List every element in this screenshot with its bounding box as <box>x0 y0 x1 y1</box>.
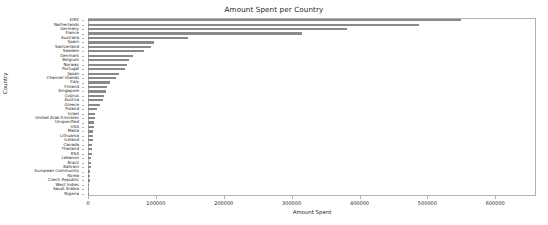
y-tick-mark <box>82 149 84 150</box>
y-tick-mark <box>82 29 84 30</box>
x-tick-mark <box>292 196 293 199</box>
bar <box>88 162 91 164</box>
bar-fill <box>88 99 103 101</box>
y-tick-mark <box>82 140 84 141</box>
y-tick-mark <box>82 123 84 124</box>
bar <box>88 55 133 57</box>
x-tick-mark <box>224 196 225 199</box>
y-tick-mark <box>82 176 84 177</box>
bar-fill <box>88 68 125 70</box>
x-tick-mark <box>427 196 428 199</box>
y-axis-tick-labels: EIRENetherlandsGermanyFranceAustraliaSpa… <box>0 18 84 196</box>
x-tick-label: 200000 <box>214 200 233 206</box>
bar-fill <box>88 37 188 39</box>
y-tick-mark <box>82 185 84 186</box>
bar <box>88 64 127 66</box>
bar-fill <box>88 32 302 34</box>
y-tick-mark <box>82 194 84 195</box>
bar <box>88 68 125 70</box>
y-tick-mark <box>82 78 84 79</box>
y-tick-mark <box>82 25 84 26</box>
y-tick-mark <box>82 131 84 132</box>
bar <box>88 50 144 52</box>
y-tick-mark <box>82 87 84 88</box>
bar <box>88 193 89 195</box>
bar-fill <box>88 148 92 150</box>
bar-fill <box>88 153 92 155</box>
bar-fill <box>88 139 93 141</box>
bar <box>88 19 461 21</box>
bar <box>88 81 110 83</box>
bar-fill <box>88 166 91 168</box>
bar-fill <box>88 24 419 26</box>
x-tick-label: 500000 <box>418 200 437 206</box>
bar-fill <box>88 175 90 177</box>
bar-fill <box>88 126 94 128</box>
y-tick-mark <box>82 136 84 137</box>
y-tick-mark <box>82 91 84 92</box>
y-tick-mark <box>82 69 84 70</box>
bar-fill <box>88 73 119 75</box>
bar-fill <box>88 144 92 146</box>
bar-fill <box>88 184 89 186</box>
y-tick-mark <box>82 42 84 43</box>
bar <box>88 121 94 123</box>
bar <box>88 188 89 190</box>
bar-fill <box>88 188 89 190</box>
bar-fill <box>88 193 89 195</box>
y-tick-mark <box>82 158 84 159</box>
x-tick-label: 600000 <box>486 200 505 206</box>
y-tick-mark <box>82 189 84 190</box>
bar <box>88 139 93 141</box>
x-tick-label: 0 <box>86 200 89 206</box>
bar <box>88 117 95 119</box>
y-tick-mark <box>82 180 84 181</box>
bar <box>88 179 90 181</box>
bar-fill <box>88 77 116 79</box>
bar <box>88 184 89 186</box>
y-tick-mark <box>82 38 84 39</box>
y-tick-mark <box>82 145 84 146</box>
bar-fill <box>88 81 110 83</box>
bar-fill <box>88 50 144 52</box>
bar <box>88 126 94 128</box>
x-tick-label: 100000 <box>146 200 165 206</box>
bar-series <box>88 18 536 196</box>
bar-fill <box>88 28 347 30</box>
bar-fill <box>88 162 91 164</box>
bar-fill <box>88 157 91 159</box>
bar <box>88 104 100 106</box>
bar <box>88 77 116 79</box>
x-tick-mark <box>156 196 157 199</box>
bar <box>88 175 90 177</box>
y-axis-title: Country <box>2 73 8 94</box>
bar <box>88 41 154 43</box>
y-tick-mark <box>82 163 84 164</box>
y-tick-mark <box>82 51 84 52</box>
bar-fill <box>88 113 95 115</box>
bar-fill <box>88 104 100 106</box>
bar-fill <box>88 130 93 132</box>
y-tick-mark <box>82 127 84 128</box>
bar-fill <box>88 90 106 92</box>
bar <box>88 86 107 88</box>
bar-fill <box>88 179 90 181</box>
bar <box>88 148 92 150</box>
bar <box>88 90 106 92</box>
bar <box>88 170 90 172</box>
bar <box>88 153 92 155</box>
bar <box>88 144 92 146</box>
y-tick-mark <box>82 74 84 75</box>
bar <box>88 46 151 48</box>
x-axis-title: Amount Spent <box>88 209 536 215</box>
bar <box>88 166 91 168</box>
y-tick-mark <box>82 34 84 35</box>
y-tick-mark <box>82 65 84 66</box>
x-tick-label: 300000 <box>282 200 301 206</box>
y-tick-mark <box>82 96 84 97</box>
y-tick-mark <box>82 105 84 106</box>
bar-fill <box>88 135 93 137</box>
bar <box>88 73 119 75</box>
bar-fill <box>88 86 107 88</box>
bar-fill <box>88 64 127 66</box>
